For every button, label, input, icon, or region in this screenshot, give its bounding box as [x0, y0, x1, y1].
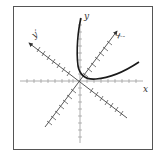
y-prime-axis-label: y′	[29, 28, 42, 41]
y-axis-label: y	[83, 11, 90, 21]
conic-curve	[77, 18, 139, 79]
x-prime-axis	[45, 31, 117, 127]
x-axis-label: x	[143, 84, 148, 94]
x-axis	[20, 79, 143, 83]
rotated-axes-diagram: y x x′ y′	[0, 0, 159, 159]
